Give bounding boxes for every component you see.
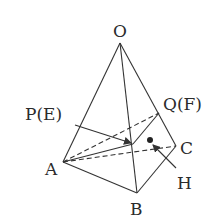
edge-AB <box>63 162 137 193</box>
label-Q: Q(F) <box>163 94 202 114</box>
arrow-to-H <box>153 145 176 168</box>
label-O: O <box>113 21 127 41</box>
label-A: A <box>44 159 58 179</box>
edge-BC <box>137 146 176 193</box>
edge-OA <box>63 43 120 162</box>
label-P: P(E) <box>25 104 62 124</box>
segment-AP <box>63 144 133 162</box>
edge-OB <box>120 43 137 193</box>
edge-AC-hidden <box>63 146 176 162</box>
label-C: C <box>180 138 193 158</box>
label-B: B <box>130 199 143 219</box>
point-H-dot <box>147 137 153 143</box>
arrow-to-P <box>75 125 131 143</box>
segment-PQ <box>133 113 159 144</box>
tetrahedron-diagram: O A B C P(E) Q(F) H <box>0 0 221 220</box>
label-H: H <box>177 173 192 193</box>
